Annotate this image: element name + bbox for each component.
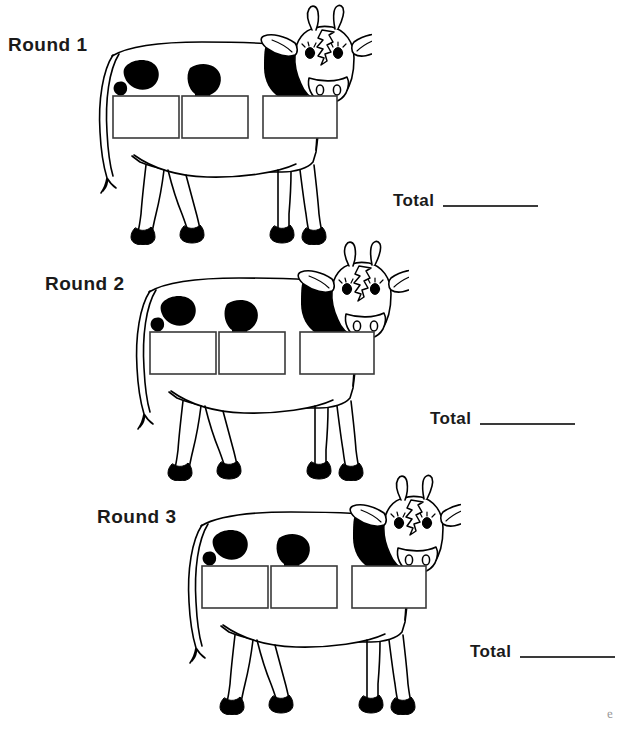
total-group-2: Total	[430, 410, 575, 427]
total-answer-blank[interactable]	[443, 205, 538, 207]
signature-mark: e	[606, 706, 614, 723]
worksheet-page: Round 1	[0, 0, 627, 734]
answer-box	[352, 566, 426, 608]
cow-illustration-1	[82, 0, 372, 245]
answer-box	[202, 566, 268, 608]
round-2-label: Round 2	[45, 273, 125, 295]
answer-box	[300, 332, 374, 374]
answer-box	[150, 332, 216, 374]
total-label: Total	[470, 643, 511, 660]
answer-box	[182, 96, 248, 138]
cow-illustration-2	[119, 236, 409, 481]
total-answer-blank[interactable]	[520, 656, 615, 658]
answer-box	[113, 96, 179, 138]
total-label: Total	[393, 192, 434, 209]
total-group-1: Total	[393, 192, 538, 209]
total-answer-blank[interactable]	[480, 423, 575, 425]
total-group-3: Total	[470, 643, 615, 660]
round-3-label: Round 3	[97, 506, 177, 528]
answer-box	[219, 332, 285, 374]
answer-box	[271, 566, 337, 608]
round-1-label: Round 1	[8, 34, 88, 56]
total-label: Total	[430, 410, 471, 427]
answer-box	[263, 96, 337, 138]
cow-illustration-3	[171, 470, 461, 715]
